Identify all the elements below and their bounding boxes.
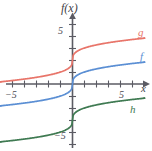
curve-label-g: g bbox=[138, 27, 144, 38]
y-tick-label-neg5: −5 bbox=[54, 131, 66, 141]
plot-area bbox=[0, 0, 152, 151]
y-tick-label-pos5: 5 bbox=[58, 26, 63, 36]
x-axis bbox=[6, 81, 150, 88]
x-axis-label: x bbox=[141, 83, 146, 94]
curve-label-f: f bbox=[140, 51, 143, 62]
y-axis-label: f(x) bbox=[61, 2, 78, 14]
curve-label-h: h bbox=[130, 104, 136, 115]
function-graph-figure: f(x) x −5 5 5 −5 g f h bbox=[0, 0, 152, 151]
x-tick-label-pos5: 5 bbox=[119, 90, 124, 100]
x-tick-label-neg5: −5 bbox=[5, 90, 17, 100]
